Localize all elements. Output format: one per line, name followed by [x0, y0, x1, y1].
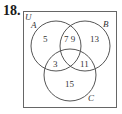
region-a-c: 3 — [53, 59, 58, 69]
venn-diagram: U A B C 5 7 9 13 3 11 15 — [0, 0, 122, 114]
set-b-label: B — [103, 19, 109, 29]
region-c-only: 15 — [65, 79, 75, 89]
region-a-only: 5 — [43, 34, 48, 44]
set-a-label: A — [30, 20, 37, 30]
region-b-only: 13 — [90, 34, 100, 44]
region-a-b: 7 9 — [64, 34, 76, 44]
region-b-c: 11 — [80, 59, 89, 69]
set-c-label: C — [88, 93, 95, 103]
